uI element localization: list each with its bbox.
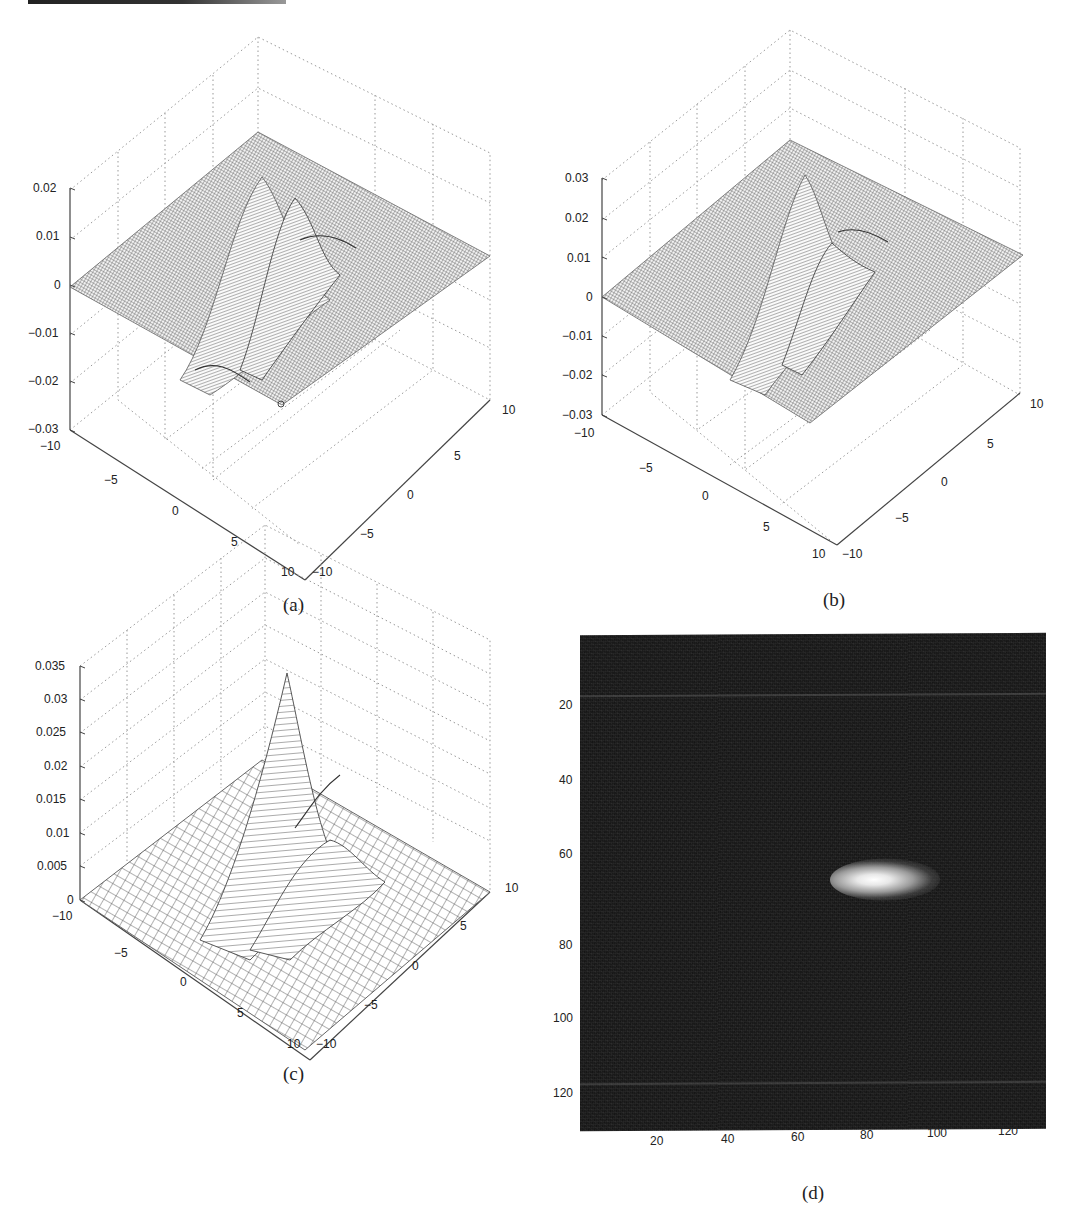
- y-tick-b-1: −5: [895, 512, 909, 524]
- x-tick-c-4: 10: [287, 1038, 300, 1050]
- x-tick-b-1: −5: [639, 462, 653, 474]
- x-tick-a-0: −10: [40, 440, 60, 452]
- y-tick-a-4: 10: [502, 404, 515, 416]
- x-tick-c-0: −10: [52, 910, 72, 922]
- surface-plot-b: [540, 0, 1076, 610]
- z-tick-c-5: 0.01: [46, 827, 69, 839]
- y-tick-d-4: 100: [553, 1012, 573, 1024]
- x-tick-b-2: 0: [702, 490, 709, 502]
- y-tick-d-5: 120: [553, 1087, 573, 1099]
- x-tick-c-2: 0: [180, 976, 187, 988]
- x-tick-b-3: 5: [763, 521, 770, 533]
- y-tick-d-3: 80: [559, 939, 572, 951]
- z-tick-a-5: −0.03: [28, 423, 58, 435]
- x-tick-a-3: 5: [231, 536, 238, 548]
- z-tick-c-4: 0.015: [36, 793, 66, 805]
- panel-d: 20 40 60 80 100 120 20 40 60 80 100 120 …: [540, 610, 1076, 1224]
- y-tick-d-2: 60: [559, 848, 572, 860]
- y-tick-c-0: −10: [316, 1038, 336, 1050]
- panel-a: 0.02 0.01 0 −0.01 −0.02 −0.03 −10 −5 0 5…: [0, 0, 540, 610]
- z-tick-a-1: 0.01: [36, 230, 59, 242]
- x-tick-d-0: 20: [650, 1135, 663, 1147]
- x-tick-d-4: 100: [927, 1127, 947, 1139]
- z-tick-c-3: 0.02: [44, 760, 67, 772]
- x-tick-b-4: 10: [812, 548, 825, 560]
- panel-c: 0.035 0.03 0.025 0.02 0.015 0.01 0.005 0…: [0, 610, 540, 1224]
- z-tick-c-2: 0.025: [36, 726, 66, 738]
- x-tick-d-3: 80: [860, 1129, 873, 1141]
- y-tick-a-3: 5: [454, 450, 461, 462]
- caption-c: (c): [283, 1063, 304, 1085]
- x-tick-b-0: −10: [574, 427, 594, 439]
- z-tick-b-1: 0.02: [565, 212, 588, 224]
- x-tick-c-3: 5: [237, 1007, 244, 1019]
- surface-plot-c: [0, 610, 540, 1224]
- z-tick-c-6: 0.005: [37, 860, 67, 872]
- z-tick-c-0: 0.035: [35, 660, 65, 672]
- x-tick-d-5: 120: [998, 1125, 1018, 1137]
- y-tick-b-0: −10: [842, 548, 862, 560]
- y-tick-c-3: 5: [460, 920, 467, 932]
- y-tick-b-2: 0: [941, 476, 948, 488]
- z-tick-c-7: 0: [67, 894, 74, 906]
- y-tick-c-4: 10: [505, 882, 518, 894]
- z-tick-b-2: 0.01: [567, 252, 590, 264]
- z-tick-b-3: 0: [586, 291, 593, 303]
- y-tick-a-2: 0: [407, 489, 414, 501]
- z-tick-b-5: −0.02: [562, 369, 592, 381]
- y-tick-d-0: 20: [559, 699, 572, 711]
- y-tick-b-3: 5: [987, 438, 994, 450]
- x-tick-d-2: 60: [791, 1131, 804, 1143]
- x-tick-c-1: −5: [114, 947, 128, 959]
- z-tick-b-6: −0.03: [562, 409, 592, 421]
- surface-plot-a: [0, 0, 540, 610]
- image-heatmap-d: [580, 633, 1046, 1131]
- z-tick-b-4: −0.01: [562, 330, 592, 342]
- z-tick-a-3: −0.01: [28, 327, 58, 339]
- x-tick-a-2: 0: [172, 505, 179, 517]
- y-tick-b-4: 10: [1030, 398, 1043, 410]
- x-tick-d-1: 40: [721, 1133, 734, 1145]
- y-tick-a-0: −10: [312, 566, 332, 578]
- panel-b: 0.03 0.02 0.01 0 −0.01 −0.02 −0.03 −10 −…: [540, 0, 1076, 610]
- z-tick-a-4: −0.02: [28, 375, 58, 387]
- noise-texture: [580, 633, 1046, 1131]
- z-tick-c-1: 0.03: [44, 693, 67, 705]
- y-tick-c-2: 0: [412, 960, 419, 972]
- z-tick-a-0: 0.02: [33, 182, 56, 194]
- x-tick-a-1: −5: [104, 474, 118, 486]
- z-tick-a-2: 0: [54, 279, 61, 291]
- caption-b: (b): [823, 589, 845, 611]
- y-tick-a-1: −5: [360, 528, 374, 540]
- z-tick-b-0: 0.03: [565, 172, 588, 184]
- caption-d: (d): [802, 1182, 824, 1204]
- y-tick-d-1: 40: [559, 774, 572, 786]
- y-tick-c-1: −5: [364, 999, 378, 1011]
- x-tick-a-4: 10: [281, 566, 294, 578]
